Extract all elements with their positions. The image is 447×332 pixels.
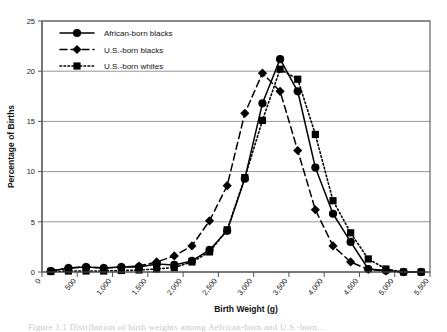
xtick-label-4000: 4,000 (306, 277, 325, 297)
xtick-label-0: 0 (33, 277, 43, 286)
series-1-marker-18 (364, 265, 373, 274)
series-line-1 (51, 73, 421, 272)
x-axis-title: Birth Weight (g) (214, 304, 278, 314)
series-1-marker-15 (311, 205, 320, 214)
legend-swatch-marker-2 (73, 62, 80, 69)
series-0-marker-14 (294, 87, 302, 95)
xtick-label-2000: 2,000 (165, 277, 184, 297)
xtick-label-4500: 4,500 (341, 277, 360, 297)
ytick-label-15: 15 (27, 117, 35, 126)
series-2-marker-4 (118, 267, 125, 274)
xtick-label-3000: 3,000 (236, 277, 255, 297)
figure-root: 0510152025Percentage of Births05001,0001… (0, 0, 447, 332)
series-1-marker-11 (240, 109, 249, 118)
legend-swatch-marker-1 (72, 45, 81, 54)
ytick-label-5: 5 (31, 218, 35, 227)
series-2-marker-18 (365, 255, 372, 262)
series-2-marker-9 (206, 248, 213, 255)
xtick-label-5500: 5,500 (412, 277, 431, 297)
series-line-2 (51, 69, 421, 272)
xtick-label-2500: 2,500 (200, 277, 219, 297)
xtick-label-1500: 1,500 (130, 277, 149, 297)
series-0-marker-17 (347, 238, 355, 246)
series-1-marker-10 (223, 181, 232, 190)
series-2-marker-14 (294, 76, 301, 83)
ytick-label-20: 20 (27, 67, 35, 76)
series-1-marker-7 (170, 251, 179, 260)
figure-caption: Figure 1.1 Distribution of birth weights… (28, 322, 438, 332)
xtick-label-1000: 1,000 (94, 277, 113, 297)
y-axis-title: Percentage of Births (6, 105, 16, 188)
ytick-label-10: 10 (27, 167, 35, 176)
series-1-marker-14 (293, 146, 302, 155)
series-2-marker-8 (188, 258, 195, 265)
legend-label-2: U.S.-born whites (104, 62, 163, 71)
series-2-marker-3 (100, 267, 107, 274)
series-1-marker-12 (258, 69, 267, 78)
series-2-marker-17 (347, 229, 354, 236)
series-2-marker-15 (312, 131, 319, 138)
series-2-marker-11 (241, 174, 248, 181)
series-2-marker-1 (65, 267, 72, 274)
series-1-marker-8 (187, 241, 196, 250)
series-0-marker-16 (329, 210, 337, 218)
series-2-marker-2 (82, 267, 89, 274)
legend-label-1: U.S.-born blacks (104, 46, 163, 55)
ytick-label-0: 0 (31, 268, 35, 277)
birth-weight-distribution-chart: 0510152025Percentage of Births05001,0001… (0, 0, 447, 332)
xtick-label-3500: 3,500 (271, 277, 290, 297)
series-0-marker-15 (311, 163, 319, 171)
series-2-marker-7 (171, 264, 178, 271)
legend-swatch-marker-0 (73, 29, 81, 37)
xtick-label-5000: 5,000 (377, 277, 396, 297)
legend-label-0: African-born blacks (104, 29, 172, 38)
ytick-label-25: 25 (27, 17, 35, 26)
xtick-label-500: 500 (63, 277, 78, 292)
series-1-marker-9 (205, 216, 214, 225)
series-line-0 (51, 59, 421, 272)
series-0-marker-12 (258, 99, 266, 107)
series-2-marker-10 (224, 226, 231, 233)
series-2-marker-16 (329, 197, 336, 204)
series-2-marker-13 (276, 66, 283, 73)
series-2-marker-12 (259, 117, 266, 124)
series-0-marker-13 (276, 55, 284, 63)
